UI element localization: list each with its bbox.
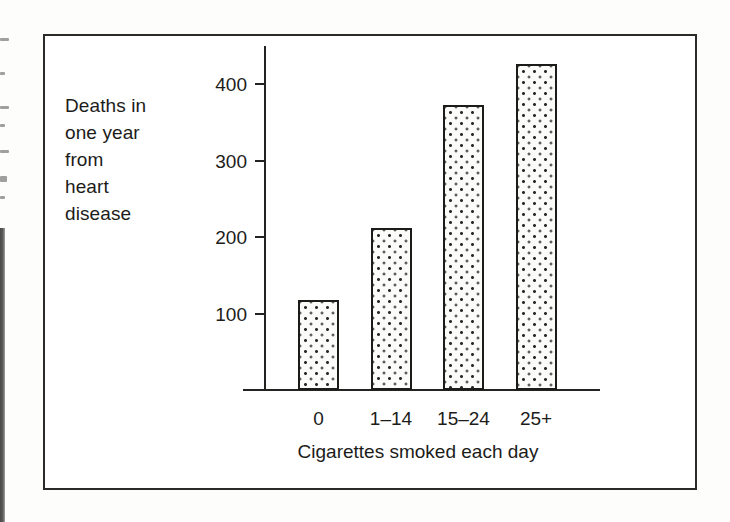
scan-fragment bbox=[0, 38, 9, 41]
scan-artifact-strip bbox=[0, 0, 40, 522]
scan-fragment bbox=[0, 196, 5, 199]
y-axis-label: Deaths in one year from heart disease bbox=[65, 92, 215, 227]
scan-fragment bbox=[0, 176, 7, 182]
y-tick-label: 300 bbox=[195, 152, 247, 171]
bar bbox=[298, 300, 339, 390]
bar bbox=[443, 105, 484, 390]
bar-chart: Deaths in one year from heart disease 10… bbox=[43, 34, 697, 490]
y-tick-mark bbox=[255, 236, 265, 238]
scan-fragment bbox=[0, 72, 5, 75]
scan-fragment bbox=[0, 124, 5, 127]
bar bbox=[516, 64, 557, 390]
y-tick-mark bbox=[255, 83, 265, 85]
scan-fragment bbox=[0, 106, 9, 109]
y-axis-line bbox=[264, 46, 266, 391]
x-axis-title: Cigarettes smoked each day bbox=[193, 442, 643, 461]
y-tick-mark bbox=[255, 160, 265, 162]
y-tick-label: 100 bbox=[195, 305, 247, 324]
scan-fragment bbox=[0, 150, 9, 153]
page-canvas: Deaths in one year from heart disease 10… bbox=[0, 0, 730, 522]
y-tick-mark bbox=[255, 313, 265, 315]
scan-edge-bar bbox=[0, 228, 5, 522]
y-tick-label: 200 bbox=[195, 228, 247, 247]
y-tick-label: 400 bbox=[195, 75, 247, 94]
x-tick-label: 25+ bbox=[492, 409, 581, 428]
bar bbox=[371, 228, 412, 390]
